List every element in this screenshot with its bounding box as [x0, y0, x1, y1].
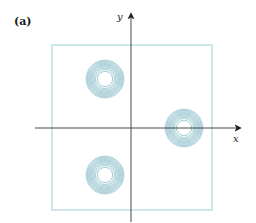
- contour-group-upper-left: [86, 60, 124, 98]
- domain-box: [52, 45, 212, 210]
- contour-figure: (a) y x: [0, 0, 256, 223]
- contour-groups: [86, 60, 203, 194]
- plot-svg: [0, 0, 256, 223]
- y-axis-label: y: [117, 11, 123, 22]
- panel-label: (a): [14, 15, 32, 28]
- contour-group-lower-left: [86, 156, 124, 194]
- x-axis-label: x: [233, 133, 239, 144]
